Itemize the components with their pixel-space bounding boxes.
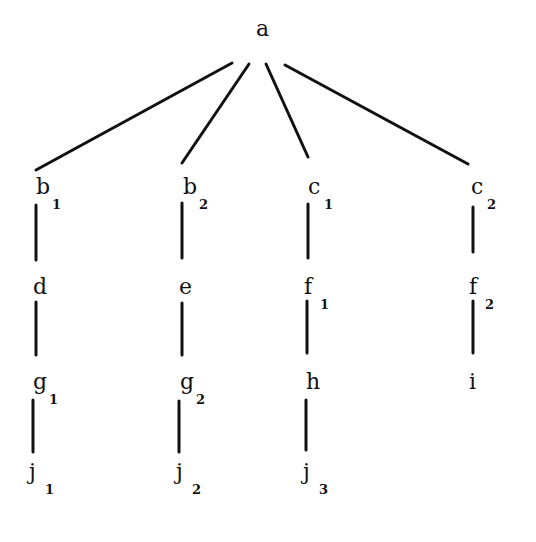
node-b1-subscript: 1 — [52, 198, 61, 211]
node-j1: j — [29, 461, 36, 483]
node-j3: j — [303, 461, 310, 483]
node-f2-subscript: 2 — [485, 298, 494, 311]
node-f1: f — [304, 276, 312, 298]
tree-diagram — [0, 0, 536, 542]
node-d: d — [33, 276, 47, 298]
node-g1: g — [33, 371, 47, 393]
node-i: i — [469, 371, 476, 393]
node-g2-subscript: 2 — [196, 393, 205, 406]
node-c2: c — [471, 176, 483, 198]
node-b1: b — [36, 176, 50, 198]
node-j2: j — [176, 461, 183, 483]
node-g2: g — [180, 371, 194, 393]
node-j3-subscript: 3 — [319, 483, 328, 496]
node-b2: b — [183, 176, 197, 198]
node-j1-subscript: 1 — [45, 483, 54, 496]
node-g1-subscript: 1 — [49, 393, 58, 406]
node-j2-subscript: 2 — [192, 483, 201, 496]
node-f1-subscript: 1 — [320, 298, 329, 311]
node-c2-subscript: 2 — [487, 198, 496, 211]
edge-a-c2 — [285, 65, 468, 164]
node-c1-subscript: 1 — [324, 198, 333, 211]
node-h: h — [306, 371, 320, 393]
edge-a-c1 — [266, 64, 308, 157]
node-e: e — [179, 276, 192, 298]
node-f2: f — [469, 276, 477, 298]
node-a: a — [256, 18, 269, 40]
edge-a-b2 — [182, 64, 249, 163]
node-b2-subscript: 2 — [199, 198, 208, 211]
node-c1: c — [308, 176, 320, 198]
edge-a-b1 — [36, 63, 232, 170]
